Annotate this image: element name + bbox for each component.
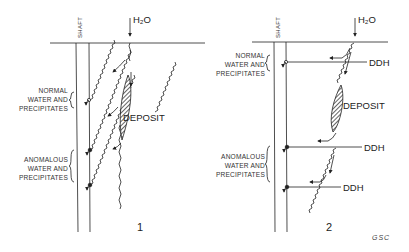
- panel-number: 2: [326, 221, 332, 233]
- flow-arrow: [318, 133, 336, 141]
- deposit-orebody: [331, 85, 343, 132]
- panel-number: 1: [137, 221, 143, 233]
- brace-normal: [69, 92, 74, 108]
- water-label: H₂O: [133, 14, 151, 25]
- shaft-left-wall: [274, 42, 275, 232]
- water-label: H₂O: [358, 14, 376, 25]
- ddh-label: DDH: [364, 142, 385, 153]
- inclined-fracture: [337, 43, 354, 83]
- flow-arrow: [108, 107, 118, 116]
- brace-normal: [265, 55, 270, 71]
- flow-arrow: [113, 143, 121, 149]
- deposit-orebody: [120, 75, 131, 140]
- deposit-label: DEPOSIT: [123, 112, 165, 123]
- flow-arrow: [113, 60, 125, 72]
- brace-anomalous: [265, 146, 270, 182]
- shaft-label: SHAFT: [275, 17, 281, 38]
- shaft-right-wall: [89, 43, 90, 232]
- shaft-left-wall: [76, 43, 78, 232]
- normal-water-label: NORMAL WATER AND PRECIPITATES: [14, 86, 68, 113]
- shaft-right-wall: [286, 42, 287, 232]
- fracture-line-1: [90, 40, 115, 100]
- shaft-label: SHAFT: [77, 17, 83, 38]
- normal-water-label: NORMAL WATER AND PRECIPITATES: [209, 51, 265, 78]
- ddh-label: DDH: [343, 182, 364, 193]
- flow-arrow: [330, 48, 350, 58]
- deposit-label: DEPOSIT: [343, 100, 385, 111]
- panel-2: [252, 18, 388, 232]
- brace-anomalous: [69, 150, 74, 182]
- panel-1: [50, 18, 205, 232]
- anomalous-water-label: ANOMALOUS WATER AND PRECIPITATES: [14, 155, 68, 182]
- fracture-line-4: [155, 62, 176, 112]
- diagram-canvas: [0, 0, 409, 252]
- anomalous-water-label: ANOMALOUS WATER AND PRECIPITATES: [209, 152, 265, 179]
- credit-label: GSC: [372, 234, 390, 241]
- ddh-label: DDH: [369, 57, 390, 68]
